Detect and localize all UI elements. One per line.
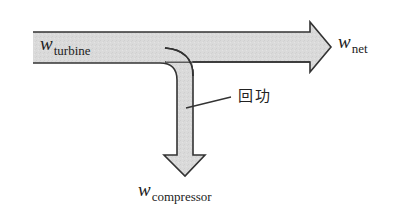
net-work-subscript: net [352, 41, 368, 56]
compressor-work-subscript: compressor [152, 189, 212, 204]
turbine-work-subscript: turbine [54, 43, 91, 58]
compressor-work-symbol: w [138, 179, 151, 200]
compressor-work-label: wcompressor [138, 180, 212, 199]
work-flow-diagram: wturbine wnet 回功 wcompressor [0, 0, 397, 210]
net-work-symbol: w [338, 31, 351, 52]
turbine-work-symbol: w [40, 33, 53, 54]
net-work-label: wnet [338, 32, 368, 51]
back-work-label: 回功 [238, 89, 272, 104]
turbine-work-label: wturbine [40, 34, 91, 53]
